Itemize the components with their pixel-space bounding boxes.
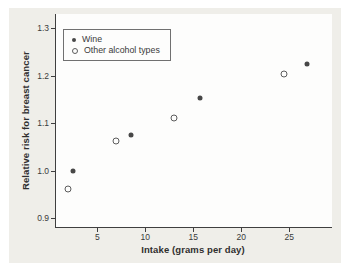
- x-tick-label: 10: [141, 233, 150, 242]
- y-tick: [51, 76, 55, 77]
- y-axis-title: Relative risk for breast cancer: [20, 14, 32, 227]
- data-point-other-alcohol: [113, 138, 120, 145]
- data-point-wine: [128, 133, 133, 138]
- open-circle-icon: [72, 48, 78, 54]
- data-point-other-alcohol: [65, 185, 72, 192]
- y-tick: [51, 28, 55, 29]
- legend: Wine Other alcohol types: [63, 29, 171, 61]
- y-tick-label: 1.3: [29, 24, 49, 33]
- y-tick-label: 1.1: [29, 119, 49, 128]
- x-tick-label: 20: [237, 233, 246, 242]
- data-point-wine: [304, 61, 309, 66]
- x-tick-label: 25: [285, 233, 294, 242]
- legend-label-wine: Wine: [82, 35, 102, 44]
- data-point-wine: [71, 168, 76, 173]
- data-point-wine: [198, 96, 203, 101]
- plot-area: Wine Other alcohol types 0.91.01.11.21.3…: [55, 14, 332, 228]
- legend-item-wine: Wine: [72, 34, 170, 45]
- y-tick-label: 0.9: [29, 214, 49, 223]
- y-tick-label: 1.0: [29, 166, 49, 175]
- filled-circle-icon: [72, 38, 76, 42]
- x-tick-label: 15: [189, 233, 198, 242]
- legend-item-other-alcohol: Other alcohol types: [72, 45, 170, 56]
- y-tick: [51, 123, 55, 124]
- y-tick-label: 1.2: [29, 71, 49, 80]
- x-axis-title: Intake (grams per day): [55, 244, 331, 255]
- data-point-other-alcohol: [280, 71, 287, 78]
- data-point-other-alcohol: [171, 114, 178, 121]
- y-tick: [51, 171, 55, 172]
- x-tick-label: 5: [95, 233, 100, 242]
- y-tick: [51, 218, 55, 219]
- figure-panel: Wine Other alcohol types 0.91.01.11.21.3…: [9, 8, 341, 263]
- legend-label-other-alcohol: Other alcohol types: [84, 46, 160, 55]
